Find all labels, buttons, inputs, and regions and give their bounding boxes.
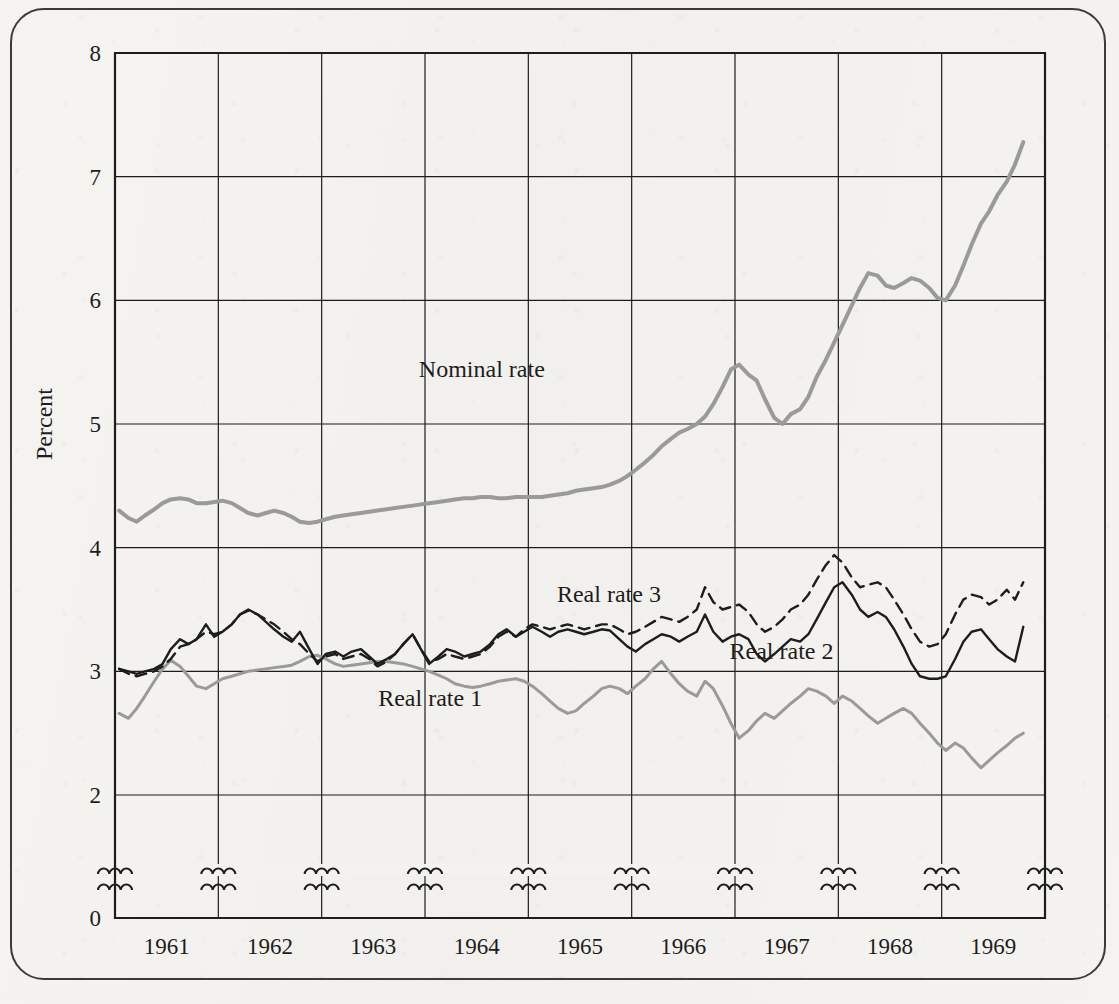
x-axis-year-label: 1965	[557, 934, 603, 959]
series-layer	[119, 142, 1023, 768]
x-axis-year-label: 1962	[247, 934, 293, 959]
x-axis-year-label: 1963	[350, 934, 396, 959]
chart-canvas: 87654320Percent1961196219631964196519661…	[0, 0, 1119, 1004]
series-annotation-label: Nominal rate	[419, 356, 545, 382]
y-axis-tick-label: 7	[90, 165, 102, 190]
y-axis-tick-label: 0	[90, 906, 102, 931]
axis-baseline-zero	[115, 795, 1045, 918]
grid-layer	[115, 53, 1045, 795]
series-annotation-label: Real rate 3	[557, 581, 661, 607]
y-axis-tick-label: 5	[90, 412, 102, 437]
y-axis-tick-label: 8	[90, 41, 102, 66]
x-axis-year-label: 1967	[764, 934, 810, 959]
series-line-nominal-rate	[119, 142, 1023, 523]
x-axis-year-label: 1968	[867, 934, 913, 959]
x-axis-year-label: 1961	[144, 934, 190, 959]
y-axis-tick-label: 4	[90, 536, 102, 561]
x-axis-year-label: 1969	[970, 934, 1016, 959]
axis-layer	[89, 53, 1071, 918]
series-annotation-label: Real rate 1	[378, 685, 482, 711]
series-line-real-rate-3	[119, 555, 1023, 676]
x-axis-year-label: 1964	[454, 934, 501, 959]
y-axis-tick-label: 2	[90, 783, 102, 808]
y-axis-title: Percent	[31, 388, 57, 460]
series-line-real-rate-1	[119, 655, 1023, 768]
x-axis-year-label: 1966	[660, 934, 706, 959]
y-axis-tick-label: 6	[90, 288, 102, 313]
axis-break-mask	[89, 864, 1071, 876]
y-axis-tick-label: 3	[90, 659, 102, 684]
series-annotation-label: Real rate 2	[730, 638, 834, 664]
